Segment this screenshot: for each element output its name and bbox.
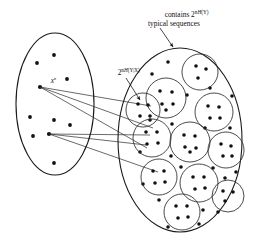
cluster-dot bbox=[156, 141, 160, 145]
output-dot bbox=[223, 176, 227, 180]
input-dot bbox=[68, 123, 72, 127]
input-dot bbox=[31, 134, 35, 138]
conditional-circle bbox=[146, 78, 186, 118]
output-dot bbox=[230, 94, 234, 98]
output-dot bbox=[216, 210, 220, 214]
conditional-circle bbox=[141, 159, 177, 195]
cluster-dot bbox=[151, 169, 155, 173]
input-set-dots bbox=[28, 53, 72, 165]
output-dot bbox=[197, 222, 201, 226]
cluster-dot bbox=[193, 187, 197, 191]
cluster-dot bbox=[186, 215, 190, 219]
cluster-dot bbox=[148, 114, 152, 118]
fan-line-lower bbox=[49, 134, 150, 135]
conditional-circle-outline bbox=[212, 180, 244, 212]
figure-labels: contains 2nH(Y) typical sequences 2nH(Y|… bbox=[34, 7, 221, 85]
cluster-dot bbox=[203, 186, 207, 190]
cluster-dot bbox=[223, 199, 227, 203]
inner-annotation: 2nH(Y|X) bbox=[101, 65, 153, 77]
conditional-circle-outline bbox=[164, 194, 200, 230]
output-dot bbox=[166, 225, 170, 229]
cluster-dot bbox=[174, 204, 178, 208]
cluster-dot bbox=[138, 114, 142, 118]
input-dot bbox=[52, 161, 56, 165]
cluster-dot bbox=[163, 180, 167, 184]
cluster-dot bbox=[217, 105, 221, 109]
cluster-dot bbox=[158, 89, 162, 93]
cluster-dot bbox=[206, 104, 210, 108]
output-dot bbox=[157, 198, 161, 202]
fan-line-lower bbox=[49, 134, 158, 172]
cluster-dot bbox=[231, 190, 235, 194]
cluster-dot bbox=[160, 102, 164, 106]
output-dot bbox=[179, 165, 183, 169]
cluster-dot bbox=[136, 102, 140, 106]
conditional-circle-outline bbox=[126, 93, 160, 127]
output-dot bbox=[201, 208, 205, 212]
cluster-dot bbox=[146, 103, 150, 107]
cluster-dot bbox=[170, 90, 174, 94]
cluster-dot bbox=[185, 204, 189, 208]
cluster-dot bbox=[221, 154, 225, 158]
cluster-dot bbox=[144, 130, 148, 134]
input-dot bbox=[28, 115, 32, 119]
top-annotation-line2: typical sequences bbox=[148, 19, 200, 28]
top-annotation-arrow bbox=[160, 28, 173, 47]
conditional-circle bbox=[164, 194, 200, 230]
cluster-dot bbox=[171, 102, 175, 106]
output-dot bbox=[166, 60, 170, 64]
cluster-dot bbox=[176, 216, 180, 220]
source-point-label: xn bbox=[34, 73, 69, 85]
cluster-dot bbox=[183, 145, 187, 149]
output-dot bbox=[170, 122, 174, 126]
right-ellipse-group bbox=[118, 48, 244, 232]
cluster-dot bbox=[208, 116, 212, 120]
cluster-dot bbox=[221, 189, 225, 193]
cluster-dot bbox=[218, 116, 222, 120]
cluster-dot bbox=[155, 130, 159, 134]
conditional-circle bbox=[212, 180, 244, 212]
left-ellipse-group bbox=[16, 33, 94, 175]
joint-typicality-diagram: contains 2nH(Y) typical sequences 2nH(Y|… bbox=[0, 0, 257, 240]
cluster-dot bbox=[204, 67, 208, 71]
cluster-dot bbox=[145, 142, 149, 146]
cluster-dot bbox=[188, 150, 192, 154]
cluster-dot bbox=[229, 144, 233, 148]
input-dot bbox=[52, 53, 56, 57]
conditional-circle-outline bbox=[170, 122, 210, 162]
output-dot bbox=[228, 126, 232, 130]
cluster-dot bbox=[182, 133, 186, 137]
cluster-dot bbox=[194, 146, 198, 150]
cluster-dot bbox=[230, 154, 234, 158]
cluster-dot bbox=[162, 169, 166, 173]
figure-container: contains 2nH(Y) typical sequences 2nH(Y|… bbox=[0, 0, 257, 240]
top-annotation-line1: contains 2nH(Y) bbox=[148, 7, 221, 19]
conditional-circle bbox=[182, 54, 218, 90]
cluster-dot bbox=[191, 175, 195, 179]
output-dot bbox=[169, 154, 173, 158]
output-dot bbox=[234, 170, 238, 174]
cluster-dot bbox=[202, 175, 206, 179]
conditional-circle bbox=[170, 122, 210, 162]
cluster-dot bbox=[194, 64, 198, 68]
conditional-circle-outline bbox=[146, 78, 186, 118]
conditional-typical-circles bbox=[126, 54, 244, 230]
conditional-circle-outline bbox=[182, 54, 218, 90]
cluster-dot bbox=[164, 108, 168, 112]
cluster-dot bbox=[196, 76, 200, 80]
cluster-dot bbox=[153, 181, 157, 185]
conditional-circle bbox=[208, 132, 244, 168]
input-dot bbox=[52, 118, 56, 122]
conditional-circle-outline bbox=[208, 132, 244, 168]
input-dot bbox=[35, 61, 39, 65]
output-typical-set-outline bbox=[118, 48, 242, 232]
cluster-dot bbox=[193, 134, 197, 138]
conditional-circle-outline bbox=[141, 159, 177, 195]
conditional-circle-pointed bbox=[126, 93, 160, 127]
cluster-dot bbox=[219, 142, 223, 146]
